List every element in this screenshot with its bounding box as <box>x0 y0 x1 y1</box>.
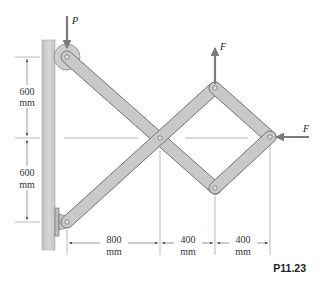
force-p-label: P <box>71 15 78 26</box>
bar-bottom-left-to-top-right <box>59 80 223 231</box>
pin-center <box>158 136 162 140</box>
dim-horizontal-1-unit: mm <box>106 246 122 257</box>
dim-vertical-2-value: 600 <box>20 167 35 178</box>
bar-bottom-right-to-right <box>207 129 279 197</box>
wall <box>42 40 55 250</box>
mechanism-diagram: P F F 600 mm 600 mm 800 mm 400 mm 400 mm <box>0 0 328 290</box>
vertical-dimensions: 600 mm 600 mm <box>19 59 35 220</box>
pin-bottom-left <box>65 220 69 224</box>
dim-horizontal-3-value: 400 <box>236 234 251 245</box>
dim-horizontal-3-unit: mm <box>235 246 251 257</box>
dim-horizontal-2-unit: mm <box>180 246 196 257</box>
dim-horizontal-1-value: 800 <box>107 234 122 245</box>
pin-bottom-right <box>213 186 217 190</box>
dim-vertical-1-value: 600 <box>20 86 35 97</box>
pin-top-left <box>65 55 69 59</box>
force-f-vertical: F <box>215 41 227 84</box>
force-p: P <box>67 15 78 48</box>
force-f-horizontal: F <box>276 123 310 137</box>
dim-vertical-1-unit: mm <box>19 97 35 108</box>
horizontal-dimensions: 800 mm 400 mm 400 mm <box>69 234 268 257</box>
dim-vertical-2-unit: mm <box>19 179 35 190</box>
bar-top-left-to-bottom-right <box>59 49 224 197</box>
pin-top-right <box>213 86 217 90</box>
force-f-horizontal-label: F <box>302 123 310 134</box>
figure-label: P11.23 <box>273 262 306 274</box>
bars <box>59 49 279 231</box>
pin-right <box>268 135 272 139</box>
force-f-vertical-label: F <box>219 41 227 52</box>
dim-horizontal-2-value: 400 <box>181 234 196 245</box>
